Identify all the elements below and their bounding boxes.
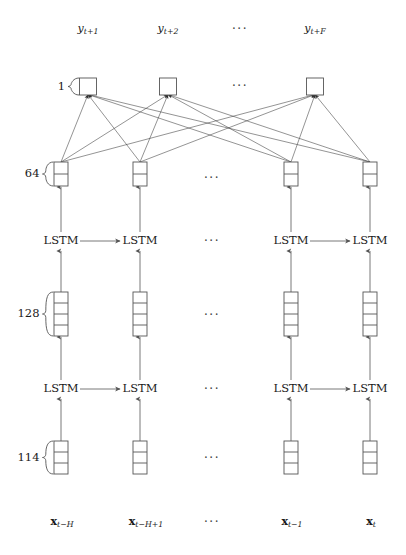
dense-edge — [61, 95, 168, 163]
layer-size-label: 114 — [18, 450, 40, 464]
input-variable-label: xt−H+1 — [129, 515, 164, 529]
lstm-row-ellipsis: ··· — [204, 382, 220, 396]
lstm-cell-label: LSTM — [274, 233, 309, 247]
dense-edge — [61, 95, 88, 163]
lstm-cell-label: LSTM — [123, 233, 158, 247]
layer-node-group — [54, 78, 377, 474]
layer-size-brace — [68, 78, 79, 95]
layer-ellipsis: ··· — [204, 451, 220, 465]
network-architecture-diagram: 164128114LSTMLSTMLSTMLSTM···LSTMLSTMLSTM… — [0, 0, 406, 555]
architecture-svg-canvas: 164128114LSTMLSTMLSTMLSTM···LSTMLSTMLSTM… — [0, 0, 406, 555]
text-label-group: 164128114LSTMLSTMLSTMLSTM···LSTMLSTMLSTM… — [18, 22, 388, 530]
dense-edge — [168, 95, 370, 163]
layer-unit-box — [133, 441, 147, 474]
layer-unit-box — [307, 78, 324, 95]
input-variable-label: xt — [366, 515, 377, 529]
layer-unit-box — [160, 78, 177, 95]
lstm-cell-label: LSTM — [353, 233, 388, 247]
dense-edge — [315, 95, 370, 163]
dense-edge — [291, 95, 315, 163]
dense-edge — [88, 95, 370, 163]
layer-ellipsis: ··· — [232, 79, 248, 93]
layer-size-label: 64 — [25, 166, 40, 180]
output-variable-label: yt+1 — [77, 22, 99, 36]
dense-connection-group — [61, 95, 370, 163]
lstm-cell-label: LSTM — [274, 381, 309, 395]
input-label-ellipsis: ··· — [204, 515, 220, 529]
layer-size-brace — [43, 162, 54, 186]
dense-edge — [88, 95, 140, 163]
dense-edge — [140, 95, 315, 163]
output-label-ellipsis: ··· — [232, 22, 248, 36]
input-variable-label: xt−H — [50, 515, 73, 529]
layer-ellipsis: ··· — [204, 171, 220, 185]
layer-size-label: 1 — [58, 79, 65, 93]
lstm-cell-label: LSTM — [353, 381, 388, 395]
input-variable-label: xt−1 — [281, 515, 302, 529]
dense-edge — [140, 95, 168, 163]
dense-edge — [61, 95, 315, 163]
layer-unit-box — [80, 78, 97, 95]
lstm-cell-label: LSTM — [44, 381, 79, 395]
output-variable-label: yt+F — [303, 22, 326, 36]
lstm-row-ellipsis: ··· — [204, 234, 220, 248]
lstm-cell-label: LSTM — [123, 381, 158, 395]
lstm-cell-label: LSTM — [44, 233, 79, 247]
layer-size-brace — [43, 292, 54, 336]
layer-unit-box — [363, 441, 377, 474]
output-variable-label: yt+2 — [157, 22, 179, 36]
layer-unit-box — [284, 441, 298, 474]
layer-size-label: 128 — [18, 306, 40, 320]
dense-edge — [88, 95, 291, 163]
layer-size-brace — [43, 441, 54, 474]
layer-ellipsis: ··· — [204, 308, 220, 322]
layer-unit-box — [54, 441, 68, 474]
